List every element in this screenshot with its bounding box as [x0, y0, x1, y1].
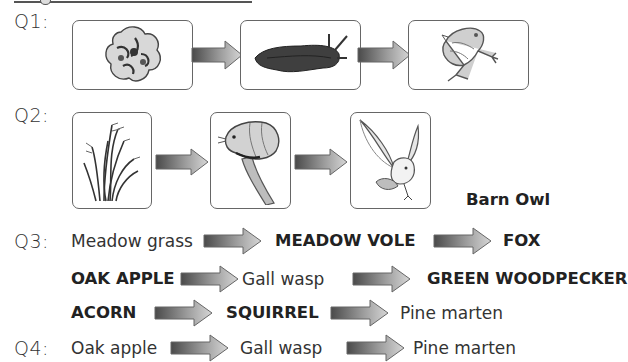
q2-label: Q2:	[14, 104, 49, 126]
q4-arrow-2	[346, 334, 406, 362]
q3-r1-item-3: FOX	[503, 231, 540, 251]
frog-icon	[434, 23, 504, 87]
q2-arrow-2	[294, 148, 348, 176]
q1-arrow-1	[191, 40, 243, 70]
q4-item-3: Pine marten	[413, 338, 516, 358]
q3-r3-item-3: Pine marten	[400, 303, 503, 323]
q3-r1-item-2: MEADOW VOLE	[275, 231, 415, 251]
q3-r3-arrow-2	[330, 299, 390, 327]
vole-icon	[216, 117, 286, 205]
q3-r2-item-1: OAK APPLE	[71, 269, 175, 289]
grass-icon	[82, 119, 142, 203]
q3-r3-item-2: SQUIRREL	[226, 303, 319, 323]
q3-r1-arrow-1	[203, 227, 263, 255]
q3-r2-item-3: GREEN WOODPECKER	[427, 269, 628, 289]
q2-arrow-1	[155, 148, 209, 176]
q3-label: Q3:	[14, 230, 49, 252]
q2-answer-barn-owl: Barn Owl	[466, 190, 550, 210]
q2-card-owl	[350, 112, 431, 209]
q2-card-vole	[210, 112, 291, 209]
q1-card-lettuce	[72, 20, 193, 90]
q4-item-2: Gall wasp	[240, 338, 322, 358]
lettuce-icon	[101, 24, 165, 86]
q3-r2-arrow-1	[180, 265, 240, 293]
q3-r1-arrow-2	[433, 227, 493, 255]
owl-icon	[354, 116, 428, 206]
q4-label: Q4:	[14, 337, 49, 359]
q3-r2-arrow-2	[352, 265, 412, 293]
q3-r2-item-2: Gall wasp	[242, 269, 324, 289]
q2-card-grass	[72, 112, 152, 209]
q3-r3-arrow-1	[154, 299, 214, 327]
q3-r3-item-1: ACORN	[71, 303, 136, 323]
q1-card-frog	[408, 20, 529, 90]
slug-icon	[251, 30, 351, 80]
q1-card-slug	[240, 20, 361, 90]
q4-item-1: Oak apple	[71, 338, 157, 358]
q1-arrow-2	[357, 40, 411, 70]
heading-remnant	[40, 0, 51, 5]
q3-r1-item-1: Meadow grass	[71, 231, 193, 251]
q1-label: Q1:	[14, 10, 49, 32]
q4-arrow-1	[170, 334, 230, 362]
